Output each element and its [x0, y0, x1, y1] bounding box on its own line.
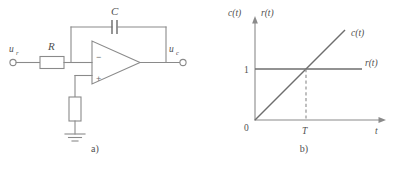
series-c-of-t-line: [255, 30, 345, 120]
noninverting-sign: +: [96, 74, 101, 84]
y-axis-label-left: c(t): [228, 8, 241, 19]
input-terminal-node: [10, 59, 16, 65]
series-r-of-t-label: r(t): [365, 58, 378, 69]
series-resistor-label: R: [47, 40, 55, 52]
panel-b-plot: c(t) r(t) t 0 1 T c(t) r(t) b): [199, 0, 397, 170]
y-axis-arrowhead: [252, 16, 258, 24]
bias-resistor-body: [69, 97, 81, 121]
panel-a-caption: a): [91, 143, 99, 155]
input-label-subscript: r: [16, 49, 19, 56]
x-axis-label: t: [375, 126, 378, 136]
plot-svg: c(t) r(t) t 0 1 T c(t) r(t) b): [199, 0, 397, 170]
feedback-capacitor-label: C: [111, 5, 119, 17]
y-tick-label-1: 1: [244, 65, 249, 75]
series-resistor-body: [40, 57, 64, 69]
series-c-of-t-label: c(t): [351, 28, 364, 39]
circuit-schematic-svg: − + u r R C u c a): [0, 0, 199, 170]
figure-container: − + u r R C u c a): [0, 0, 397, 170]
origin-label: 0: [244, 123, 249, 133]
y-axis-label-right: r(t): [261, 8, 274, 19]
inverting-sign: −: [96, 52, 101, 62]
input-label-symbol: u: [9, 44, 14, 54]
x-tick-label-T: T: [302, 126, 308, 136]
x-axis-arrowhead: [379, 117, 387, 123]
panel-b-caption: b): [300, 143, 308, 155]
panel-a-circuit: − + u r R C u c a): [0, 0, 199, 170]
output-terminal-node: [180, 59, 186, 65]
output-label-symbol: u: [169, 44, 174, 54]
output-label-subscript: c: [176, 49, 179, 56]
